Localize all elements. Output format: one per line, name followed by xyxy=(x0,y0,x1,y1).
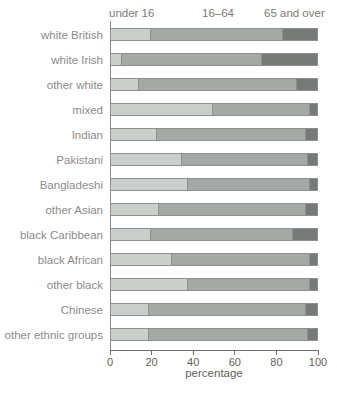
chart-row: Indian xyxy=(0,122,318,147)
category-label: white Irish xyxy=(0,54,110,66)
stacked-bar xyxy=(110,153,318,166)
category-label: white British xyxy=(0,29,110,41)
bar-segment-under-16 xyxy=(111,304,148,315)
bar-segment-16-64 xyxy=(148,329,307,340)
chart-row: Pakistani xyxy=(0,147,318,172)
legend-16-64-label: 16–64 xyxy=(202,7,234,19)
stacked-bar xyxy=(110,328,318,341)
x-tick-mark xyxy=(234,350,235,355)
chart-row: other white xyxy=(0,72,318,97)
bar-segment-65-and-over xyxy=(309,254,317,265)
bar-segment-65-and-over xyxy=(309,104,317,115)
bar-segment-16-64 xyxy=(158,204,304,215)
bar-segment-under-16 xyxy=(111,179,187,190)
chart-row: other ethnic groups xyxy=(0,322,318,347)
bar-segment-65-and-over xyxy=(309,279,317,290)
bar-segment-16-64 xyxy=(150,229,292,240)
bar-segment-65-and-over xyxy=(307,329,317,340)
bar-segment-16-64 xyxy=(138,79,297,90)
x-tick-mark xyxy=(193,350,194,355)
bar-segment-65-and-over xyxy=(309,179,317,190)
chart-row: Chinese xyxy=(0,297,318,322)
bar-segment-under-16 xyxy=(111,54,121,65)
bar-segment-16-64 xyxy=(121,54,261,65)
stacked-bar xyxy=(110,53,318,66)
stacked-bar xyxy=(110,228,318,241)
bar-segment-16-64 xyxy=(181,154,307,165)
bar-segment-under-16 xyxy=(111,154,181,165)
bar-segment-under-16 xyxy=(111,229,150,240)
legend-under-16-label: under 16 xyxy=(109,7,154,19)
bar-segment-16-64 xyxy=(148,304,305,315)
bar-segment-16-64 xyxy=(171,254,309,265)
chart-row: other Asian xyxy=(0,197,318,222)
category-label: Indian xyxy=(0,129,110,141)
chart-row: white British xyxy=(0,22,318,47)
chart-row: other black xyxy=(0,272,318,297)
stacked-bar xyxy=(110,303,318,316)
category-label: Bangladeshi xyxy=(0,179,110,191)
bar-segment-65-and-over xyxy=(261,54,317,65)
category-label: mixed xyxy=(0,104,110,116)
category-label: black African xyxy=(0,254,110,266)
chart-row: black Caribbean xyxy=(0,222,318,247)
category-label: Pakistani xyxy=(0,154,110,166)
category-label: other black xyxy=(0,279,110,291)
category-label: other Asian xyxy=(0,204,110,216)
legend-65-and-over-label: 65 and over xyxy=(264,7,325,19)
x-axis-label: percentage xyxy=(110,367,318,379)
category-label: Chinese xyxy=(0,304,110,316)
bar-segment-under-16 xyxy=(111,129,156,140)
bar-rows: white Britishwhite Irishother whitemixed… xyxy=(0,22,318,347)
bar-segment-under-16 xyxy=(111,29,150,40)
bar-segment-65-and-over xyxy=(305,304,317,315)
bar-segment-under-16 xyxy=(111,204,158,215)
bar-segment-under-16 xyxy=(111,254,171,265)
chart-row: Bangladeshi xyxy=(0,172,318,197)
bar-segment-65-and-over xyxy=(305,129,317,140)
stacked-bar xyxy=(110,78,318,91)
stacked-bar xyxy=(110,278,318,291)
bar-segment-under-16 xyxy=(111,104,212,115)
category-label: other ethnic groups xyxy=(0,329,110,341)
x-tick-mark xyxy=(276,350,277,355)
bar-segment-16-64 xyxy=(150,29,282,40)
stacked-bar xyxy=(110,128,318,141)
bar-segment-65-and-over xyxy=(292,229,317,240)
x-tick-mark xyxy=(151,350,152,355)
stacked-bar xyxy=(110,203,318,216)
bar-segment-under-16 xyxy=(111,79,138,90)
chart-row: mixed xyxy=(0,97,318,122)
bar-segment-16-64 xyxy=(156,129,304,140)
bar-segment-16-64 xyxy=(187,279,309,290)
age-distribution-chart: under 16 16–64 65 and over white British… xyxy=(0,0,337,395)
category-label: other white xyxy=(0,79,110,91)
category-label: black Caribbean xyxy=(0,229,110,241)
bar-segment-65-and-over xyxy=(296,79,317,90)
bar-segment-16-64 xyxy=(212,104,309,115)
x-tick-mark xyxy=(110,350,111,355)
stacked-bar xyxy=(110,178,318,191)
stacked-bar xyxy=(110,28,318,41)
bar-segment-16-64 xyxy=(187,179,309,190)
chart-row: black African xyxy=(0,247,318,272)
bar-segment-65-and-over xyxy=(305,204,317,215)
stacked-bar xyxy=(110,103,318,116)
bar-segment-under-16 xyxy=(111,329,148,340)
bar-segment-under-16 xyxy=(111,279,187,290)
chart-row: white Irish xyxy=(0,47,318,72)
x-tick-mark xyxy=(318,350,319,355)
bar-segment-65-and-over xyxy=(282,29,317,40)
stacked-bar xyxy=(110,253,318,266)
bar-segment-65-and-over xyxy=(307,154,317,165)
